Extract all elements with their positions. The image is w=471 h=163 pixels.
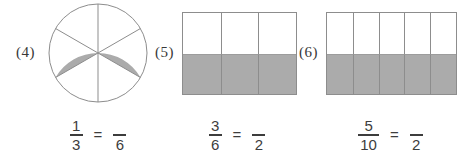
problem-label-4: (4) (16, 44, 35, 61)
answer-blank (414, 117, 418, 134)
equation-4: 1 3 = 6 (48, 116, 148, 154)
fraction-numerator: 3 (209, 117, 221, 134)
grid-cell-shaded (221, 54, 259, 95)
fraction-denominator: 3 (70, 136, 82, 153)
equation-5: 3 6 = 2 (187, 116, 287, 154)
problem-label-6: (6) (299, 44, 318, 61)
answer-blank (118, 117, 122, 134)
sector-divider-line (56, 29, 98, 54)
fraction-numerator: 5 (362, 117, 374, 134)
fraction-grid (326, 12, 457, 95)
fraction-rhs: 2 (410, 117, 423, 153)
grid-cell (430, 13, 456, 54)
fraction-grid (182, 12, 297, 95)
grid-cell-shaded (379, 54, 405, 95)
equals-sign: = (233, 126, 242, 143)
grid-cell (353, 13, 379, 54)
problem-label-5: (5) (155, 44, 174, 61)
sector-divider-line (98, 29, 140, 54)
equals-sign: = (390, 126, 399, 143)
grid-cell-shaded (327, 54, 353, 95)
grid-cell (258, 13, 296, 54)
fraction-lhs: 1 3 (70, 117, 83, 153)
fraction-lhs: 3 6 (209, 117, 222, 153)
grid-cell (183, 13, 221, 54)
sector-divider-line (98, 53, 140, 78)
grid-cell-shaded (430, 54, 456, 95)
fraction-denominator: 6 (209, 136, 221, 153)
equation-6: 5 10 = 2 (338, 116, 443, 154)
fraction-circle (48, 3, 148, 103)
grid-cell-shaded (258, 54, 296, 95)
grid-cell (404, 13, 430, 54)
fraction-denominator: 2 (253, 136, 265, 153)
grid-cell (379, 13, 405, 54)
fraction-denominator: 2 (410, 136, 422, 153)
fraction-numerator: 1 (70, 117, 82, 134)
grid-cell (221, 13, 259, 54)
grid-cell (327, 13, 353, 54)
fraction-lhs: 5 10 (358, 117, 379, 153)
fraction-rhs: 6 (113, 117, 126, 153)
grid-cell-shaded (404, 54, 430, 95)
worksheet-page: (4) 1 3 = 6 (5) 3 6 = 2 (6) (0, 0, 471, 163)
equals-sign: = (94, 126, 103, 143)
sector-divider-line (56, 53, 98, 78)
grid-cell-shaded (353, 54, 379, 95)
fraction-denominator: 10 (358, 136, 379, 153)
grid-cell-shaded (183, 54, 221, 95)
fraction-denominator: 6 (114, 136, 126, 153)
answer-blank (257, 117, 261, 134)
fraction-rhs: 2 (252, 117, 265, 153)
